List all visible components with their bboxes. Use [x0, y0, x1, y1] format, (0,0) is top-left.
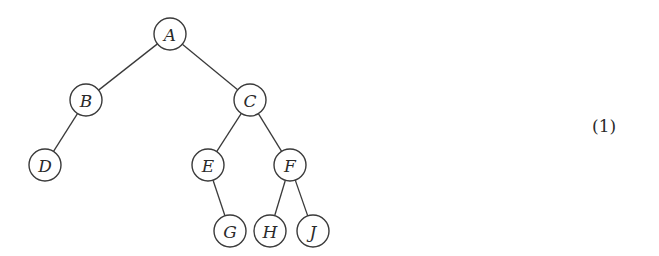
tree-node-j: J	[297, 215, 329, 247]
tree-node-d: D	[29, 149, 61, 181]
edge-e-g	[213, 180, 225, 216]
node-label: A	[162, 25, 176, 45]
edge-c-e	[217, 113, 242, 151]
edge-b-d	[54, 114, 78, 152]
tree-edges	[54, 44, 308, 216]
node-label: F	[283, 156, 297, 176]
node-label: E	[201, 156, 215, 176]
equation-number: (1)	[592, 116, 616, 136]
node-label: G	[223, 222, 237, 242]
edge-f-h	[275, 180, 286, 215]
edge-a-b	[99, 44, 158, 90]
edge-c-f	[258, 114, 281, 152]
tree-node-b: B	[70, 84, 102, 116]
node-label: D	[37, 156, 52, 176]
tree-node-g: G	[214, 215, 246, 247]
tree-node-f: F	[274, 149, 306, 181]
tree-node-h: H	[254, 215, 286, 247]
binary-tree-diagram: ABCDEFGHJ	[0, 0, 659, 256]
tree-node-e: E	[192, 149, 224, 181]
tree-node-a: A	[154, 18, 186, 50]
tree-node-c: C	[234, 84, 266, 116]
edge-a-c	[182, 44, 237, 90]
node-label: H	[262, 222, 279, 242]
tree-nodes: ABCDEFGHJ	[29, 18, 329, 247]
node-label: B	[79, 91, 93, 111]
edge-f-j	[295, 180, 307, 216]
node-label: C	[243, 91, 256, 111]
